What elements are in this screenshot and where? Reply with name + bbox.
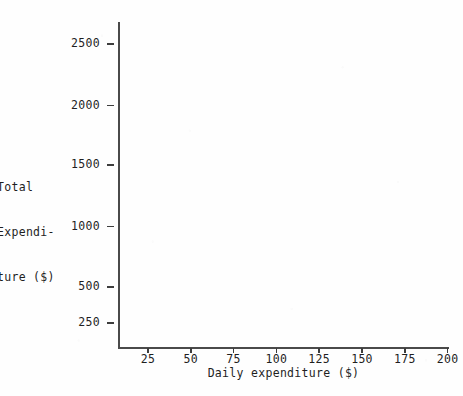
y-axis-title-line-2: Expendi- [0, 225, 55, 240]
y-axis-tick-mark [107, 322, 114, 324]
x-axis-tick-label: 100 [266, 354, 288, 366]
y-axis-tick-mark [107, 286, 114, 288]
y-axis-tick-label: 2000 [71, 99, 100, 111]
y-axis-tick-label: 250 [78, 317, 100, 329]
x-axis-tick-label: 175 [394, 354, 416, 366]
y-axis-tick-label: 1000 [71, 220, 100, 232]
y-axis-tick-label: 2500 [71, 38, 100, 50]
x-axis-tick-label: 150 [351, 354, 373, 366]
x-axis-title: Daily expenditure ($) [118, 368, 449, 380]
y-axis-title: Total Expendi- ture ($) [0, 150, 55, 315]
chart-figure: Total Expendi- ture ($) 2500200015001000… [0, 0, 463, 396]
y-axis-tick-mark [107, 164, 114, 166]
x-axis-line [118, 347, 449, 349]
y-axis-line [118, 22, 120, 349]
y-axis-tick-mark [107, 105, 114, 107]
y-axis-tick-label: 1500 [71, 159, 100, 171]
x-axis-tick-label: 125 [308, 354, 330, 366]
x-axis-tick-label: 200 [437, 354, 459, 366]
y-axis-tick-mark [107, 226, 114, 228]
x-axis-tick-label: 25 [141, 354, 155, 366]
plot-area [120, 22, 449, 347]
y-axis-title-line-1: Total [0, 180, 55, 195]
x-axis-tick-label: 50 [184, 354, 198, 366]
x-axis-tick-label: 75 [226, 354, 240, 366]
y-axis-tick-label: 500 [78, 281, 100, 293]
y-axis-title-line-3: ture ($) [0, 270, 55, 285]
y-axis-tick-mark [107, 43, 114, 45]
